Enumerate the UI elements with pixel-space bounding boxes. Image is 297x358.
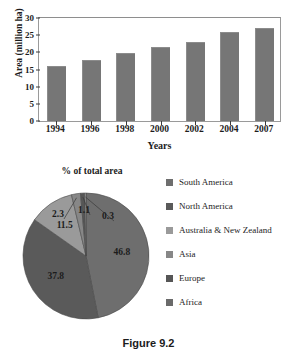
y-axis-tick: 20 xyxy=(25,47,39,57)
legend-item-label: Europe xyxy=(179,274,205,283)
pie-callout-label: 0.3 xyxy=(102,211,114,221)
legend-swatch-icon xyxy=(166,227,173,234)
legend-swatch-icon xyxy=(166,203,173,210)
legend-item: Europe xyxy=(166,266,294,290)
bar-chart-x-axis-label: Years xyxy=(38,140,281,151)
bar xyxy=(116,53,135,121)
figure-caption: Figure 9.2 xyxy=(0,337,297,349)
legend-item: South America xyxy=(166,170,294,194)
x-axis-tick-label: 2002 xyxy=(185,124,204,134)
bar xyxy=(82,60,101,121)
x-axis-tick-label: 1998 xyxy=(115,124,134,134)
legend-item: Africa xyxy=(166,290,294,314)
y-axis-tick: 15 xyxy=(25,65,39,75)
y-axis-tick: 0 xyxy=(30,116,40,126)
pie-chart-figure: % of total area 46.837.811.52.31.10.3 So… xyxy=(0,160,297,358)
bar xyxy=(47,66,66,121)
x-axis-tick-label: 1994 xyxy=(46,124,65,134)
pie-slice-label: 37.8 xyxy=(47,271,64,281)
pie-callout-label: 2.3 xyxy=(52,209,64,219)
y-axis-tick: 25 xyxy=(25,30,39,40)
y-axis-tick: 30 xyxy=(25,13,39,23)
legend-item: Asia xyxy=(166,242,294,266)
legend-swatch-icon xyxy=(166,179,173,186)
legend-item-label: South America xyxy=(179,178,233,187)
bar xyxy=(151,47,170,121)
bar-chart-figure: Area (million ha) 0 5 10 15 20 25 30 199… xyxy=(0,0,297,160)
legend-swatch-icon xyxy=(166,275,173,282)
y-axis-tick: 10 xyxy=(25,82,39,92)
legend-swatch-icon xyxy=(166,299,173,306)
legend-item: Australia & New Zealand xyxy=(166,218,294,242)
x-axis-tick-label: 1996 xyxy=(81,124,100,134)
pie-chart-legend: South AmericaNorth AmericaAustralia & Ne… xyxy=(166,170,294,314)
bar xyxy=(220,32,239,121)
legend-item-label: Asia xyxy=(179,250,196,259)
y-axis-tick: 5 xyxy=(30,99,40,109)
legend-item: North America xyxy=(166,194,294,218)
x-axis-tick-label: 2000 xyxy=(150,124,169,134)
bar xyxy=(255,28,274,121)
pie-slice-label: 46.8 xyxy=(114,247,131,257)
pie-callout-label: 1.1 xyxy=(78,205,90,215)
bar-chart-y-axis-label: Area (million ha) xyxy=(14,0,24,98)
x-axis-tick-label: 2007 xyxy=(254,124,273,134)
legend-item-label: Africa xyxy=(179,298,202,307)
legend-swatch-icon xyxy=(166,251,173,258)
bar xyxy=(186,42,205,121)
legend-item-label: Australia & New Zealand xyxy=(179,226,272,235)
bar-chart-plot-area: 0 5 10 15 20 25 30 xyxy=(38,17,281,122)
legend-item-label: North America xyxy=(179,202,233,211)
x-axis-tick-label: 2004 xyxy=(219,124,238,134)
